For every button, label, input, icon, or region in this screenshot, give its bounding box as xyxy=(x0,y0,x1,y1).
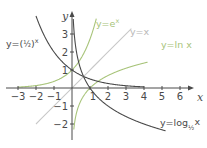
x-tick-label: 5 xyxy=(159,91,165,102)
curve-y-equals-log-half-x xyxy=(73,19,165,131)
y-tick-label: −2 xyxy=(53,119,68,130)
x-axis-arrow-icon xyxy=(188,86,194,91)
y-axis-label: y xyxy=(61,10,69,23)
x-tick-label: −3 xyxy=(11,91,26,102)
y-axis-arrow-icon xyxy=(70,11,75,17)
y-tick-label: 1 xyxy=(62,65,68,76)
label-y-equals-log-half-x: y=log½x xyxy=(160,116,200,132)
curve-y-equals-half-to-x xyxy=(36,16,144,87)
y-tick-label: −1 xyxy=(53,101,68,112)
label-y-equals-ln-x: y=ln x xyxy=(161,39,192,50)
x-tick-label: 1 xyxy=(90,91,96,102)
y-tick-label: 2 xyxy=(62,47,68,58)
function-graph: −3−2−1123456−2−1123 x y y=ex y=x y=ln x … xyxy=(0,0,207,148)
x-tick-label: 2 xyxy=(105,91,111,102)
x-tick-label: 3 xyxy=(123,91,129,102)
x-tick-label: 6 xyxy=(177,91,183,102)
x-tick-label: −2 xyxy=(29,91,44,102)
x-axis-label: x xyxy=(197,91,204,104)
label-y-equals-e-to-x: y=ex xyxy=(96,17,119,29)
axis-ticks xyxy=(18,34,180,124)
x-tick-label: 4 xyxy=(141,91,147,102)
label-y-equals-half-to-x: y=(½)x xyxy=(6,37,39,49)
label-y-equals-x: y=x xyxy=(130,26,150,37)
y-tick-label: 3 xyxy=(62,29,68,40)
